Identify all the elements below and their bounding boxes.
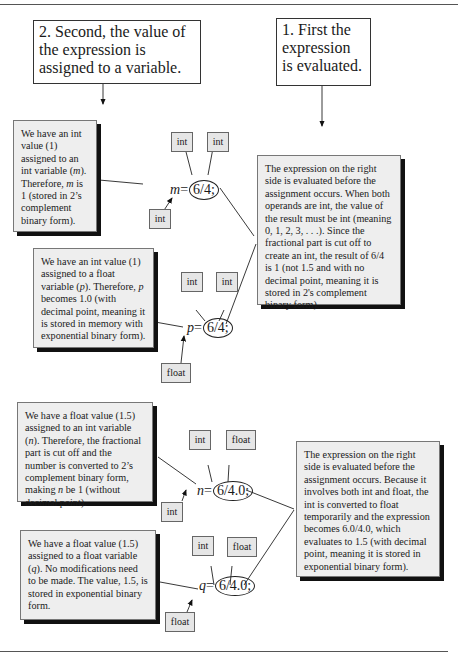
eval-note-int-float: The expression on the right side is eval…	[296, 441, 440, 577]
operand-type-tag: int	[189, 430, 211, 450]
variable-name: p	[187, 320, 194, 335]
assign-note-m: We have an int value (1) assigned to an …	[13, 120, 97, 232]
operand-type-tag: int	[207, 132, 229, 152]
expression-oval: 6/4;	[189, 180, 219, 200]
variable-type-tag: float	[161, 363, 191, 383]
expression-n: n=6/4.0;	[197, 481, 253, 501]
equals-sign: =	[206, 578, 214, 593]
step2-box: 2. Second, the value of the expression i…	[33, 20, 201, 84]
assign-note-q: We have a float value (1.5) assigned to …	[20, 530, 156, 620]
step1-box: 1. First the expression is evaluated.	[276, 18, 371, 86]
expression-oval: 6/4.0;	[215, 576, 255, 596]
operand-type-tag: int	[192, 536, 214, 556]
operand-type-tag: int	[171, 132, 193, 152]
variable-type-tag: int	[161, 502, 183, 522]
variable-name: q	[199, 578, 206, 593]
top-rule	[0, 4, 458, 5]
equals-sign: =	[194, 320, 202, 335]
assign-note-n: We have a float value (1.5) assigned to …	[17, 402, 153, 502]
operand-type-tag: float	[227, 537, 257, 557]
bottom-rule	[0, 651, 448, 652]
expression-q: q=6/4.0;	[199, 576, 255, 596]
expression-p: p=6/4;	[187, 318, 233, 338]
eval-note-int-int: The expression on the right side is eval…	[257, 155, 401, 305]
equals-sign: =	[204, 483, 212, 498]
variable-name: m	[170, 182, 180, 197]
expression-oval: 6/4.0;	[213, 481, 253, 501]
expression-m: m=6/4;	[170, 180, 219, 200]
operand-type-tag: int	[216, 272, 238, 292]
variable-type-tag: float	[165, 612, 195, 632]
variable-type-tag: int	[149, 209, 171, 229]
equals-sign: =	[180, 182, 188, 197]
operand-type-tag: float	[226, 430, 256, 450]
assign-note-p: We have an int value (1) assigned to a f…	[33, 248, 154, 348]
operand-type-tag: int	[181, 272, 203, 292]
expression-oval: 6/4;	[203, 318, 233, 338]
variable-name: n	[197, 483, 204, 498]
